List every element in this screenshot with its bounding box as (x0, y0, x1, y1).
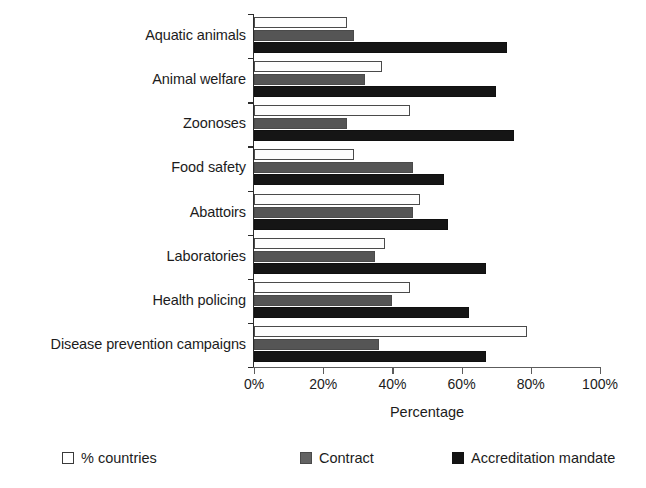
bar-group (254, 279, 600, 323)
bar-0 (254, 17, 347, 28)
bar-group (254, 235, 600, 279)
bar-group (254, 58, 600, 102)
bar-group (254, 146, 600, 190)
bar-1 (254, 295, 392, 306)
bar-groups (254, 14, 600, 367)
category-axis-labels: Aquatic animalsAnimal welfareZoonosesFoo… (0, 14, 246, 367)
category-label: Aquatic animals (0, 27, 246, 43)
category-label: Laboratories (0, 248, 246, 264)
x-axis-tick (600, 368, 601, 374)
x-axis-tick (392, 368, 393, 374)
bar-1 (254, 162, 413, 173)
x-axis-tick-label: 40% (378, 376, 406, 392)
y-axis-tick (248, 102, 254, 103)
x-axis-tick-label: 80% (517, 376, 545, 392)
category-label: Abattoirs (0, 204, 246, 220)
category-label: Zoonoses (0, 115, 246, 131)
y-axis-tick (248, 14, 254, 15)
legend-swatch-icon (452, 452, 464, 464)
x-axis-tick (323, 368, 324, 374)
y-axis-tick (248, 323, 254, 324)
x-axis-ticks: 0%20%40%60%80%100% (254, 368, 600, 376)
legend-label: % countries (81, 450, 157, 466)
bar-group (254, 191, 600, 235)
bar-0 (254, 282, 410, 293)
x-axis-tick (531, 368, 532, 374)
legend-item-gray[interactable]: Contract (300, 450, 374, 466)
y-axis-tick (248, 58, 254, 59)
bar-2 (254, 86, 496, 97)
category-label: Disease prevention campaigns (0, 336, 246, 352)
bar-0 (254, 149, 354, 160)
bar-1 (254, 207, 413, 218)
bar-1 (254, 30, 354, 41)
category-label: Animal welfare (0, 71, 246, 87)
bar-group (254, 323, 600, 367)
category-label: Food safety (0, 159, 246, 175)
y-axis-tick (248, 235, 254, 236)
bar-2 (254, 307, 469, 318)
bar-0 (254, 194, 420, 205)
bar-2 (254, 219, 448, 230)
x-axis-tick-label: 60% (448, 376, 476, 392)
bar-group (254, 102, 600, 146)
legend-item-black[interactable]: Accreditation mandate (452, 450, 615, 466)
plot-area (254, 14, 600, 367)
legend-item-white[interactable]: % countries (62, 450, 157, 466)
x-axis-tick (462, 368, 463, 374)
bar-1 (254, 74, 365, 85)
legend-label: Contract (319, 450, 374, 466)
bar-1 (254, 118, 347, 129)
x-axis-tick-label: 0% (244, 376, 264, 392)
bar-chart: Aquatic animalsAnimal welfareZoonosesFoo… (0, 0, 646, 488)
bar-1 (254, 339, 379, 350)
y-axis-tick (248, 191, 254, 192)
legend-swatch-icon (62, 452, 74, 464)
bar-0 (254, 238, 385, 249)
bar-2 (254, 174, 444, 185)
bar-2 (254, 130, 514, 141)
bar-group (254, 14, 600, 58)
bar-2 (254, 42, 507, 53)
bar-2 (254, 351, 486, 362)
bar-1 (254, 251, 375, 262)
x-axis-tick-label: 20% (309, 376, 337, 392)
chart-legend: % countriesContractAccreditation mandate (0, 450, 646, 476)
y-axis-tick (248, 279, 254, 280)
category-label: Health policing (0, 292, 246, 308)
x-axis-tick-label: 100% (582, 376, 618, 392)
bar-2 (254, 263, 486, 274)
legend-label: Accreditation mandate (471, 450, 615, 466)
bar-0 (254, 105, 410, 116)
bar-0 (254, 326, 527, 337)
x-axis-tick (254, 368, 255, 374)
bar-0 (254, 61, 382, 72)
x-axis-title: Percentage (254, 404, 600, 420)
legend-swatch-icon (300, 452, 312, 464)
y-axis-tick (248, 146, 254, 147)
